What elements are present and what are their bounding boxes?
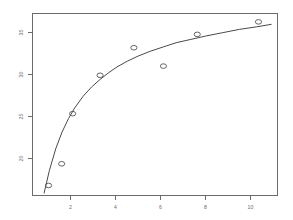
- chart-figure: 35 30 25 20 2 4 6 8 10: [0, 0, 293, 220]
- data-point-marker: [59, 161, 65, 166]
- x-tick-label: 8: [204, 204, 207, 210]
- y-axis-tick-labels: 35 30 25 20: [18, 30, 24, 162]
- x-tick-label: 4: [114, 204, 117, 210]
- data-point-marker: [255, 20, 261, 25]
- data-point-marker: [131, 45, 137, 50]
- x-tick-label: 10: [248, 204, 254, 210]
- scatter-plot-svg: 35 30 25 20 2 4 6 8 10: [0, 0, 293, 220]
- x-axis-tick-labels: 2 4 6 8 10: [69, 204, 253, 210]
- y-tick-label: 35: [18, 30, 24, 36]
- plot-frame: [33, 14, 278, 196]
- x-axis-ticks: [71, 196, 251, 201]
- data-point-marker: [97, 73, 103, 78]
- x-tick-label: 2: [69, 204, 72, 210]
- fitted-curve: [44, 24, 271, 193]
- data-point-marker: [194, 32, 200, 37]
- y-tick-label: 30: [18, 72, 24, 78]
- data-point-marker: [160, 64, 166, 69]
- y-axis-ticks: [28, 33, 33, 159]
- y-tick-label: 20: [18, 156, 24, 162]
- x-tick-label: 6: [159, 204, 162, 210]
- y-tick-label: 25: [18, 114, 24, 120]
